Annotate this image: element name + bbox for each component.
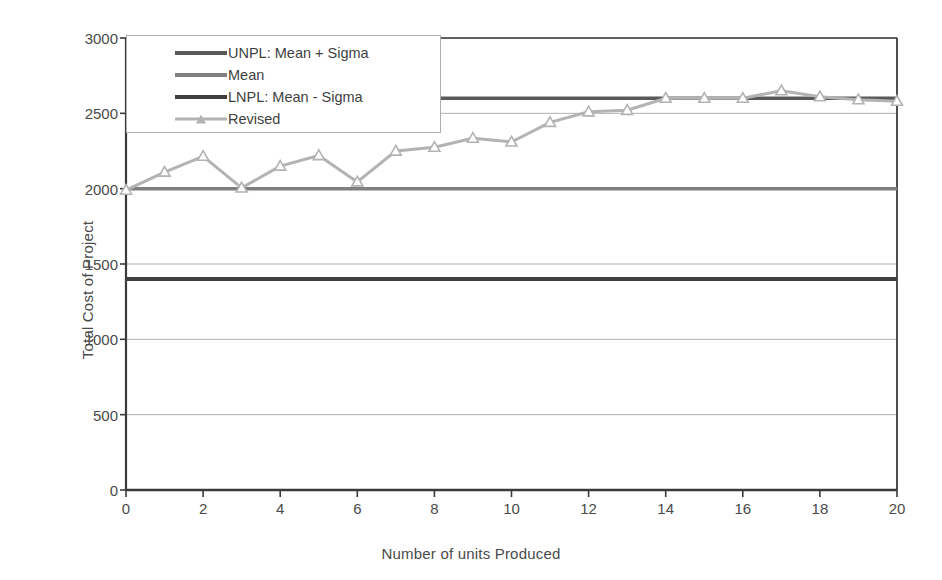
chart-container: Total Cost of Project Number of units Pr… <box>0 0 942 580</box>
legend-swatch <box>175 64 227 86</box>
data-point-marker <box>198 151 209 161</box>
legend-item: UNPL: Mean + Sigma <box>127 42 440 64</box>
legend-item: LNPL: Mean - Sigma <box>127 86 440 108</box>
legend-label: Revised <box>227 111 280 127</box>
legend-swatch <box>175 86 227 108</box>
legend-label: LNPL: Mean - Sigma <box>227 89 363 105</box>
legend-label: Mean <box>227 67 264 83</box>
legend-item: Mean <box>127 64 440 86</box>
triangle-marker-icon <box>196 115 206 124</box>
data-point-marker <box>313 150 324 160</box>
chart-legend: UNPL: Mean + SigmaMeanLNPL: Mean - Sigma… <box>126 35 441 133</box>
legend-swatch <box>175 108 227 130</box>
legend-item: Revised <box>127 108 440 130</box>
legend-label: UNPL: Mean + Sigma <box>227 45 369 61</box>
legend-swatch <box>175 42 227 64</box>
